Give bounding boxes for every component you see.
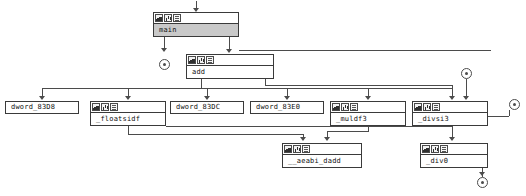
- chart-icon: [423, 103, 431, 111]
- terminator-div0-out[interactable]: [477, 177, 488, 188]
- node-toolbar-icons: [284, 145, 310, 153]
- window-icon: [414, 103, 422, 111]
- edge-main-bus-right: [239, 50, 491, 51]
- arrowhead-to-dword83E0: [284, 96, 290, 100]
- edge-floatsidf-bus: [128, 134, 303, 135]
- arrowhead-main-to-add: [226, 49, 232, 53]
- node-label: _divsi3: [413, 113, 487, 125]
- node-titlebar: [154, 13, 238, 24]
- list-icon: [432, 103, 440, 111]
- graph-node-aeabi-dadd[interactable]: __aeabi_dadd: [282, 143, 362, 168]
- node-titlebar: [421, 144, 487, 155]
- node-label: _div0: [421, 155, 487, 167]
- terminator-divsi3-side[interactable]: [509, 99, 520, 110]
- node-label: dword_83DC: [171, 102, 243, 113]
- node-titlebar: [283, 144, 361, 155]
- window-icon: [155, 14, 163, 22]
- node-toolbar-icons: [414, 103, 440, 111]
- edge-add-bus-right: [265, 85, 452, 86]
- edge-divsi3-side-drop: [509, 110, 510, 116]
- node-titlebar: [413, 102, 487, 113]
- arrowhead-main-to-return: [161, 48, 167, 52]
- arrowhead-divsi3-to-div0: [449, 137, 455, 141]
- terminator-divsi3-in[interactable]: [461, 68, 472, 79]
- chart-icon: [101, 103, 109, 111]
- edge-muldf3-bus: [327, 131, 369, 132]
- graph-node-main[interactable]: main: [153, 12, 239, 37]
- node-label: _floatsidf: [91, 113, 165, 125]
- chart-icon: [431, 145, 439, 153]
- edge-divsi3-to-div0-join: [166, 126, 453, 127]
- graph-node-floatsidf[interactable]: _floatsidf: [90, 101, 166, 126]
- node-toolbar-icons: [188, 56, 214, 64]
- edge-term-to-divsi3: [466, 79, 467, 97]
- node-label: add: [187, 66, 273, 78]
- edge-add-bus-stem: [201, 79, 202, 88]
- window-icon: [332, 103, 340, 111]
- window-icon: [92, 103, 100, 111]
- arrowhead-term-to-divsi3: [463, 96, 469, 100]
- graph-node-div0[interactable]: _div0: [420, 143, 488, 168]
- node-titlebar: [91, 102, 165, 113]
- node-label: dword_83D8: [6, 102, 78, 113]
- arrowhead-div0-to-term: [479, 172, 485, 176]
- node-titlebar: [331, 102, 405, 113]
- edge-divsi3-to-side-term: [488, 116, 509, 117]
- edge-floatsidf-stem: [128, 126, 129, 134]
- list-icon: [206, 56, 214, 64]
- arrowhead-muldf3-to-dadd: [324, 137, 330, 141]
- arrowhead-to-floatsidf: [125, 96, 131, 100]
- window-icon: [284, 145, 292, 153]
- list-icon: [173, 14, 181, 22]
- node-label: dword_83E0: [251, 102, 323, 113]
- node-toolbar-icons: [155, 14, 181, 22]
- arrowhead-to-dword83D8: [39, 96, 45, 100]
- list-icon: [110, 103, 118, 111]
- chart-icon: [341, 103, 349, 111]
- call-graph-canvas[interactable]: main add dword_83D8 _floatsidf dword_83D…: [0, 0, 526, 196]
- graph-node-divsi3[interactable]: _divsi3: [412, 101, 488, 126]
- graph-node-muldf3[interactable]: _muldf3: [330, 101, 406, 126]
- edge-main-bus-right-drop: [490, 50, 491, 51]
- node-titlebar: [187, 55, 273, 66]
- list-icon: [302, 145, 310, 153]
- node-toolbar-icons: [92, 103, 118, 111]
- list-icon: [440, 145, 448, 153]
- node-toolbar-icons: [332, 103, 358, 111]
- edge-add-bus: [42, 88, 452, 89]
- window-icon: [422, 145, 430, 153]
- chart-icon: [164, 14, 172, 22]
- node-label: _muldf3: [331, 113, 405, 125]
- window-icon: [188, 56, 196, 64]
- graph-node-add[interactable]: add: [186, 54, 274, 79]
- arrowhead-to-dword83DC: [204, 96, 210, 100]
- arrowhead-to-divsi3: [449, 96, 455, 100]
- graph-node-dword-83e0[interactable]: dword_83E0: [250, 101, 324, 114]
- arrowhead-floatsidf-to-dadd: [300, 137, 306, 141]
- chart-icon: [197, 56, 205, 64]
- node-label: __aeabi_dadd: [283, 155, 361, 167]
- graph-node-dword-83d8[interactable]: dword_83D8: [5, 101, 79, 114]
- node-toolbar-icons: [422, 145, 448, 153]
- node-label: main: [154, 24, 238, 36]
- arrowhead-to-muldf3: [365, 96, 371, 100]
- graph-node-dword-83dc[interactable]: dword_83DC: [170, 101, 244, 114]
- list-icon: [350, 103, 358, 111]
- terminator-main-return[interactable]: [159, 59, 170, 70]
- chart-icon: [293, 145, 301, 153]
